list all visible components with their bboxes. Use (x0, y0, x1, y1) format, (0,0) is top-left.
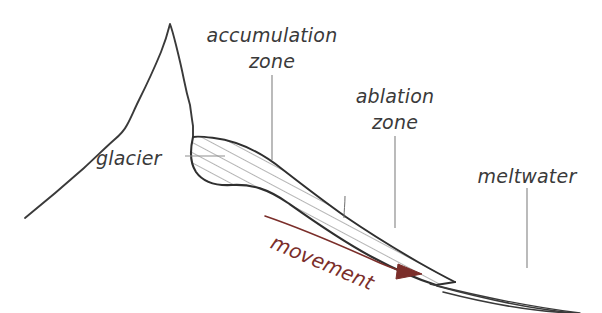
valley-floor-line (430, 284, 580, 313)
meltwater-stream (430, 284, 580, 313)
label-glacier: glacier (96, 145, 162, 171)
glacier-diagram: glacier accumulation zone ablation zone … (0, 0, 602, 313)
label-ablation-zone-line2: zone (372, 109, 418, 135)
label-ablation-zone-line1: ablation (356, 83, 435, 109)
label-meltwater: meltwater (478, 163, 577, 189)
crevasse-mark (344, 196, 345, 218)
mountain-ridge-path (25, 24, 193, 218)
mountain-outline (25, 24, 193, 218)
label-accumulation-zone-line2: zone (249, 48, 295, 74)
label-accumulation-zone-line1: accumulation (207, 22, 338, 48)
